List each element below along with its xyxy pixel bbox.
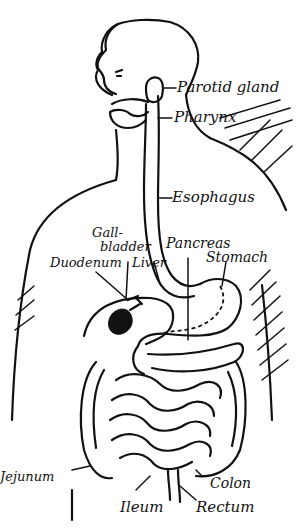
label-esophagus: Esophagus <box>172 190 255 205</box>
label-gall-bladder-2: bladder <box>100 240 151 253</box>
label-pancreas: Pancreas <box>166 236 231 250</box>
stomach-shape <box>138 279 241 346</box>
label-rectum: Rectum <box>196 500 254 515</box>
pancreas-shape <box>148 343 243 371</box>
label-liver: Liver <box>132 256 166 269</box>
parotid-gland-shape <box>146 77 163 102</box>
colon-inner <box>94 370 236 448</box>
rectum-shape <box>168 470 180 502</box>
mouth-shape <box>110 99 148 128</box>
label-colon: Colon <box>210 476 251 490</box>
label-pharynx: Pharynx <box>174 110 236 125</box>
duodenum-shape <box>133 346 144 374</box>
label-duodenum: Duodenum <box>50 256 122 269</box>
gallbladder-shape <box>109 309 133 334</box>
label-ileum: Ileum <box>120 500 163 515</box>
eye-icon <box>116 70 122 76</box>
colon-shape <box>81 362 246 478</box>
label-jejunum: Jejunum <box>0 470 54 483</box>
left-shoulder <box>12 180 116 420</box>
small-intestine-coils <box>110 374 221 469</box>
neck-front <box>116 130 118 180</box>
label-stomach: Stomach <box>206 250 268 264</box>
label-gall-bladder-1: Gall- <box>92 226 123 239</box>
face-profile <box>97 24 118 94</box>
label-parotid-gland: Parotid gland <box>177 80 279 95</box>
shoulder-hatching <box>15 100 292 380</box>
